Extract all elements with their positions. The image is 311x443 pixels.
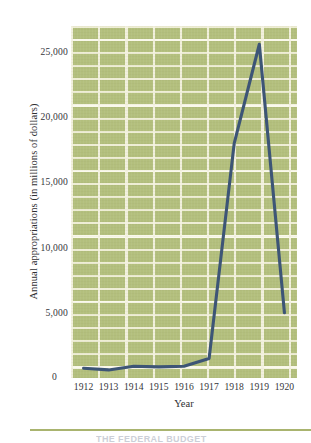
- data-series-line: [71, 26, 297, 378]
- y-tick-label: 25,000: [6, 46, 68, 57]
- footer-divider: [30, 429, 311, 431]
- y-axis-tick-labels: 25,00020,00015,00010,0005,000: [0, 0, 68, 443]
- y-tick-label: 15,000: [6, 176, 68, 187]
- footer-caption-fragment: THE FEDERAL BUDGET: [96, 434, 311, 443]
- chart-figure: Annual appropriations (in millions of do…: [0, 0, 311, 443]
- x-axis-title: Year: [71, 398, 297, 409]
- appropriations-line: [84, 44, 285, 370]
- y-tick-label: 5,000: [6, 307, 68, 318]
- y-axis-zero-label: 0: [52, 371, 57, 382]
- y-tick-label: 20,000: [6, 111, 68, 122]
- plot-area: [71, 26, 297, 378]
- y-tick-label: 10,000: [6, 242, 68, 253]
- x-axis-tick-labels: 191219131914191519161917191819191920: [71, 381, 297, 397]
- x-tick-label: 1920: [267, 381, 301, 392]
